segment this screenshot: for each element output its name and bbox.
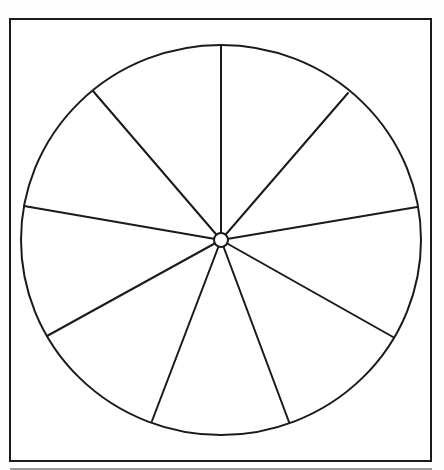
hub-circle [214,233,228,247]
segmented-wheel-diagram [0,0,444,470]
